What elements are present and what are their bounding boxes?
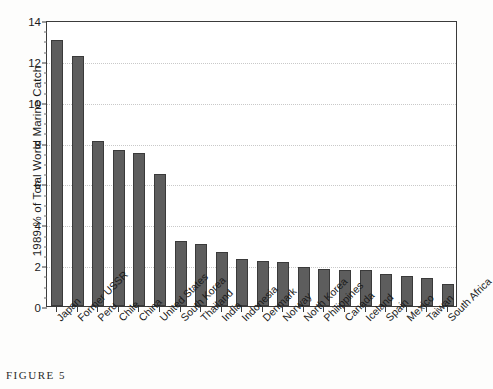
bar xyxy=(92,141,104,306)
bar xyxy=(236,259,248,306)
y-axis-tick-label: 6 xyxy=(35,179,47,191)
y-axis-title: 1989 % of Total World Marine Catch xyxy=(31,36,43,286)
y-axis-tick-label: 4 xyxy=(35,220,47,232)
y-axis-tick-label: 2 xyxy=(35,261,47,273)
bar xyxy=(51,40,63,306)
x-axis-ticks-and-labels: JapanFormer USSRPeruChileChinaUnited Sta… xyxy=(46,307,457,389)
bar xyxy=(72,56,84,306)
bar xyxy=(133,153,145,306)
y-axis-tick-label: 12 xyxy=(28,57,47,69)
bar xyxy=(154,174,166,306)
figure-caption: FIGURE 5 xyxy=(6,369,66,381)
y-axis-tick-label: 14 xyxy=(28,16,47,28)
y-axis-tick-label: 10 xyxy=(28,98,47,110)
plot-area: 02468101214 xyxy=(46,21,457,307)
bar-series xyxy=(47,22,456,306)
y-axis-tick-label: 8 xyxy=(35,139,47,151)
